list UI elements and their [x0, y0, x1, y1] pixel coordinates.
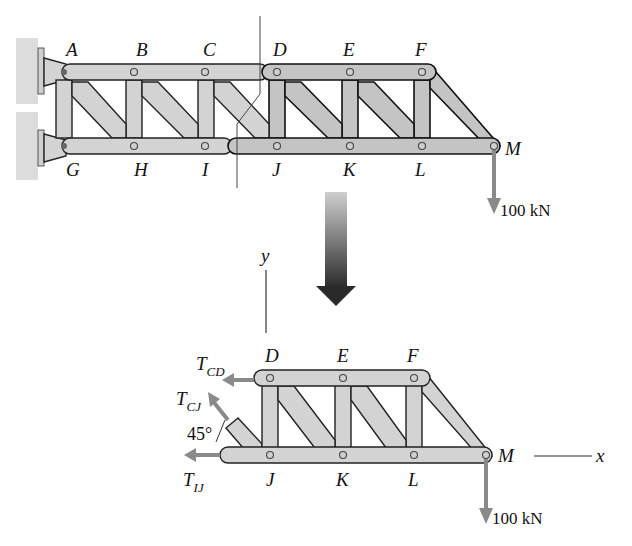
joint-label-h: H	[133, 159, 149, 180]
joint-label-l: L	[414, 159, 426, 180]
joint-label-j: J	[272, 159, 282, 180]
member-cj	[214, 82, 269, 138]
fb-member-ek	[335, 384, 351, 456]
fb-member-dj	[262, 384, 278, 456]
joint-label-a: A	[64, 39, 78, 60]
joint-label-b: B	[136, 39, 148, 60]
free-body-truss: 45° TCD TCJ TIJ D E F J K L M 100 kN x	[176, 345, 605, 528]
joint-label-e: E	[342, 39, 355, 60]
joint-label-k: K	[342, 159, 357, 180]
fb-joint-label-e: E	[336, 345, 349, 366]
joint-label-m: M	[504, 138, 522, 159]
load-label-upper: 100 kN	[500, 201, 551, 220]
x-axis-label: x	[595, 445, 605, 466]
member-dk	[285, 82, 342, 138]
member-fl	[414, 80, 430, 138]
fb-joint-label-f: F	[406, 345, 419, 366]
member-ek	[342, 80, 358, 138]
member-bi	[142, 82, 198, 138]
member-el	[358, 82, 414, 138]
fb-chord-j-m	[220, 447, 492, 463]
wall-support-top	[16, 38, 38, 104]
joint-label-g: G	[66, 159, 80, 180]
fb-joint-label-l: L	[407, 469, 419, 490]
force-label-tcd: TCD	[196, 353, 225, 379]
fb-joint-label-k: K	[335, 469, 350, 490]
joint-label-f: F	[414, 39, 427, 60]
fb-member-el	[351, 386, 406, 456]
y-axis: y	[259, 245, 270, 333]
fb-joint-label-m: M	[497, 445, 515, 466]
joint-label-i: I	[201, 159, 210, 180]
member-ci	[198, 80, 214, 138]
fb-member-fl	[406, 384, 422, 456]
member-ah	[72, 82, 126, 138]
upper-truss: 100 kN A B C D E F G H I J K L M	[16, 16, 551, 220]
truss-diagram: 100 kN A B C D E F G H I J K L M y	[0, 0, 632, 546]
y-axis-label: y	[259, 245, 270, 266]
member-bh	[126, 80, 142, 138]
fb-joint-label-d: D	[264, 345, 279, 366]
chord-i-m	[228, 138, 500, 154]
wall-support-bottom	[16, 112, 38, 180]
joint-label-c: C	[203, 39, 216, 60]
member-dj	[269, 80, 285, 138]
force-label-tcj: TCJ	[176, 388, 202, 414]
fb-joint-label-j: J	[266, 469, 276, 490]
fb-member-dk	[278, 386, 335, 456]
load-label-fb: 100 kN	[492, 509, 543, 528]
force-label-tij: TIJ	[183, 469, 205, 495]
transition-arrow	[316, 192, 356, 306]
member-ag	[56, 80, 72, 138]
joint-label-d: D	[272, 39, 287, 60]
chord-a-d	[62, 64, 268, 80]
angle-label: 45°	[187, 424, 212, 444]
